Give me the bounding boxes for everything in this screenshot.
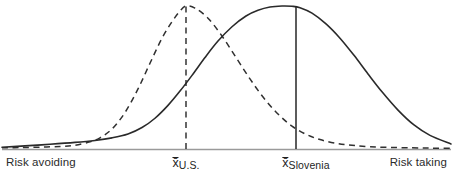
axis-label-risk-avoiding: Risk avoiding [6,156,76,168]
risk-distribution-figure: Risk avoiding Risk taking x̄U.S. x̄Slove… [0,0,453,178]
distribution-plot [0,0,453,178]
mean-subscript-us: U.S. [179,159,200,171]
axis-label-risk-taking: Risk taking [390,156,447,168]
curve-slovenia-solid [2,6,451,147]
mean-label-us: x̄U.S. [172,155,199,170]
curve-us-dashed [2,6,451,148]
mean-label-slovenia: x̄Slovenia [282,155,329,170]
mean-subscript-slovenia: Slovenia [289,159,330,171]
